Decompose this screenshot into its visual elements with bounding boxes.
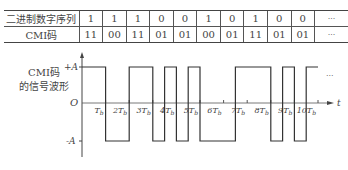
x-tick-label: 3Tb: [137, 106, 151, 116]
x-tick-label: 7Tb: [231, 106, 245, 116]
waveform-ellipsis: ···: [326, 71, 334, 80]
x-tick-label: 2Tb: [112, 106, 127, 116]
x-tick-label: 9Tb: [278, 106, 292, 116]
x-tick-label: 6Tb: [207, 106, 221, 116]
minus-a-label: -A: [66, 136, 76, 146]
t-axis-label: t: [337, 98, 341, 108]
x-tick-label: 5Tb: [184, 106, 198, 116]
x-tick-label: 4Tb: [159, 106, 174, 116]
waveform-plot: +A -A O t ··· Tb2Tb3Tb4Tb5Tb6Tb7Tb8Tb9Tb…: [0, 0, 348, 170]
y-axis-arrow-icon: [80, 52, 84, 58]
origin-label: O: [70, 97, 78, 108]
plus-a-label: +A: [64, 62, 79, 72]
tick-labels: Tb2Tb3Tb4Tb5Tb6Tb7Tb8Tb9Tb10Tb: [94, 100, 318, 116]
x-tick-label: 8Tb: [255, 106, 269, 116]
cmi-waveform-line: [82, 67, 318, 141]
x-axis-arrow-icon: [327, 101, 334, 105]
x-tick-label: Tb: [94, 106, 103, 116]
